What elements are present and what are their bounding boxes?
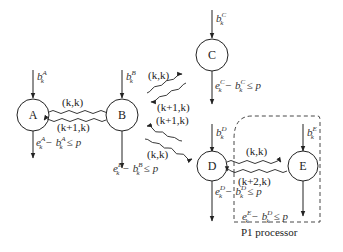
node-c[interactable]: bCk C eCk−bCk≤p [196, 10, 261, 104]
message-a-to-b [49, 111, 111, 114]
input-label-c: bCk [216, 11, 227, 27]
edge-a-b: (k,k) (k+1,k) [44, 96, 111, 134]
output-label-e: eEk−bDk≤p [242, 209, 288, 225]
edge-b-d: (k+1,k) (k,k) [145, 114, 192, 161]
node-c-label: C [208, 48, 216, 62]
message-d-to-b [147, 126, 182, 141]
message-label-bc-back: (k+1,k) [157, 101, 190, 114]
output-label-b: eBk−bBk≤p [113, 161, 159, 177]
node-a[interactable]: bAk A eAk−bAk≤p [17, 69, 82, 158]
diagram-canvas: P1 processor bAk A eAk−bAk≤p (k,k) (k+1,… [0, 0, 343, 252]
message-label-bd-fwd: (k,k) [147, 148, 168, 161]
message-d-to-e [227, 161, 281, 164]
processor-label: P1 processor [241, 226, 298, 238]
message-label-de-back: (k+2,k) [238, 175, 271, 188]
node-b-label: B [118, 108, 126, 122]
node-d-label: D [208, 159, 217, 173]
input-label-d: bDk [216, 125, 227, 141]
message-label-de-fwd: (k,k) [246, 145, 267, 158]
message-label-ab-back: (k+1,k) [57, 121, 90, 134]
output-label-a: eAk−bAk≤p [36, 135, 82, 151]
input-label-a: bAk [37, 69, 48, 85]
input-label-e: bEk [307, 125, 318, 141]
message-label-ab-fwd: (k,k) [62, 96, 83, 109]
message-label-bc-fwd: (k,k) [148, 69, 169, 82]
node-b[interactable]: bBk B eBk−bBk≤p [106, 69, 159, 177]
message-label-bd-back: (k+1,k) [156, 114, 189, 127]
node-e-label: E [299, 159, 306, 173]
edge-d-e: (k,k) (k+2,k) [227, 145, 287, 188]
node-a-label: A [29, 108, 38, 122]
output-label-c: eCk−bCk≤p [215, 78, 261, 94]
edge-b-c: (k,k) (k+1,k) [147, 69, 190, 114]
input-label-b: bBk [126, 69, 137, 85]
message-e-to-d [227, 170, 287, 173]
